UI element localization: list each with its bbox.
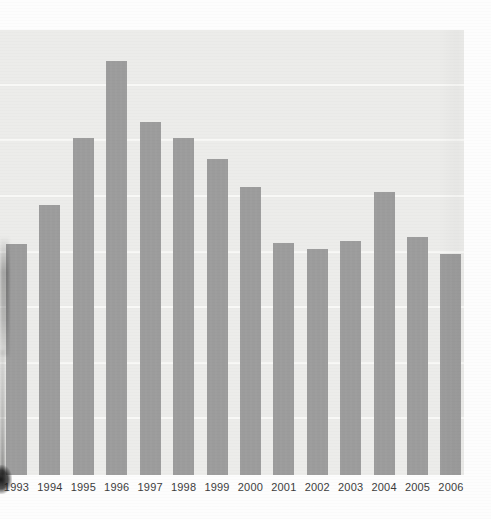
bar-2003 [340,241,361,475]
x-axis-label-2000: 2000 [233,480,267,494]
bar-2004 [374,192,395,475]
x-axis-label-1994: 1994 [33,480,67,494]
bar-2001 [273,243,294,476]
bar-2000 [240,187,261,475]
x-axis-label-1993: 1993 [0,480,34,494]
bar-1996 [106,61,127,475]
x-axis-label-2002: 2002 [300,480,334,494]
bar-2005 [407,237,428,475]
bar-1995 [73,138,94,475]
x-axis-label-2004: 2004 [367,480,401,494]
x-axis-label-2005: 2005 [401,480,435,494]
chart-page: 1993199419951996199719981999200020012002… [0,0,491,519]
x-axis-label-1996: 1996 [100,480,134,494]
x-axis-label-2003: 2003 [334,480,368,494]
bar-1997 [140,122,161,475]
bar-1998 [173,138,194,475]
x-axis-label-1995: 1995 [66,480,100,494]
gridline [0,139,464,141]
bar-2006 [440,254,461,475]
bar-1994 [39,205,60,475]
bar-2002 [307,249,328,475]
bar-1999 [207,159,228,475]
x-axis-label-1997: 1997 [133,480,167,494]
x-axis-label-2006: 2006 [434,480,468,494]
x-axis-label-1999: 1999 [200,480,234,494]
plot-area [0,30,464,475]
x-axis-labels: 1993199419951996199719981999200020012002… [0,480,491,494]
gridline [0,84,464,86]
x-axis-label-2001: 2001 [267,480,301,494]
bar-1993 [6,244,27,475]
x-axis-label-1998: 1998 [167,480,201,494]
